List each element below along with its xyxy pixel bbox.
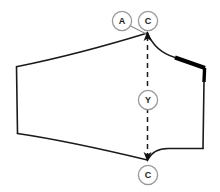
bottom-right-edge-curve bbox=[148, 149, 204, 161]
callout-y-center[interactable]: Y bbox=[138, 90, 157, 109]
callout-c-bottom-label: C bbox=[145, 170, 152, 180]
bottom-left-edge-curve bbox=[18, 134, 148, 161]
pattern-piece-diagram: A C Y C bbox=[0, 0, 220, 192]
callout-y-center-label: Y bbox=[145, 95, 151, 105]
callout-c-top[interactable]: C bbox=[138, 11, 157, 30]
top-right-edge-curve bbox=[148, 33, 176, 58]
top-left-edge-curve bbox=[18, 33, 148, 67]
reinforced-edge-segment bbox=[175, 58, 205, 69]
callout-a-top-label: A bbox=[119, 16, 126, 26]
pattern-outline-group bbox=[17, 33, 206, 160]
right-edge-upper-thick bbox=[204, 68, 205, 82]
callout-c-top-label: C bbox=[145, 16, 152, 26]
left-edge bbox=[17, 67, 18, 134]
diagram-canvas: A C Y C bbox=[0, 0, 220, 192]
callout-c-bottom[interactable]: C bbox=[138, 165, 157, 184]
callout-a-top[interactable]: A bbox=[112, 11, 131, 30]
right-edge bbox=[203, 82, 204, 149]
